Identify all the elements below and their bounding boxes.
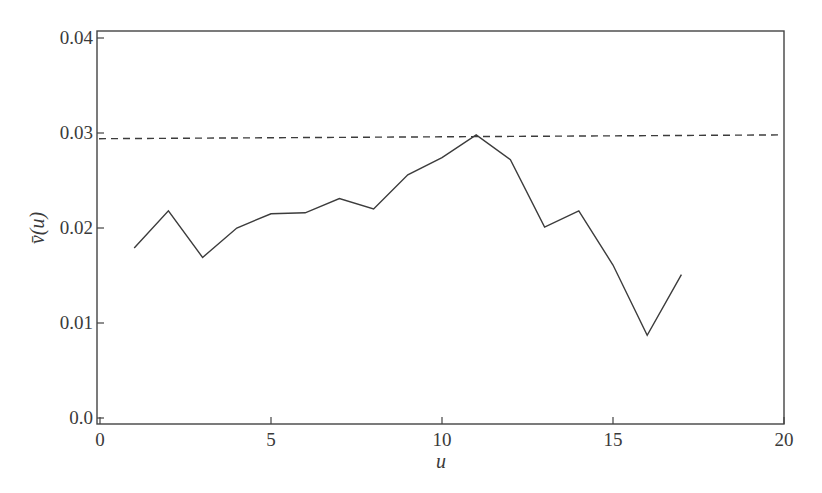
plot-border [97, 31, 784, 424]
y-tick-label: 0.0 [69, 407, 93, 428]
x-axis-label: u [436, 450, 446, 472]
x-tick-label: 10 [433, 429, 452, 450]
x-tick-label: 5 [266, 429, 276, 450]
y-tick-label: 0.02 [60, 217, 93, 238]
x-tick-label: 15 [604, 429, 623, 450]
y-tick-labels: 0.00.010.020.030.04 [60, 27, 94, 428]
axis-ticks [97, 38, 784, 424]
y-axis-label: v̄(u) [26, 212, 49, 245]
data-series [99, 135, 782, 335]
y-tick-label: 0.01 [60, 312, 93, 333]
x-tick-labels: 05101520 [95, 429, 793, 450]
plot-frame [97, 31, 784, 424]
line-chart: 05101520 0.00.010.020.030.04 u v̄(u) [0, 0, 822, 493]
series-line [134, 135, 681, 335]
y-tick-label: 0.04 [60, 27, 94, 48]
x-tick-label: 0 [95, 429, 105, 450]
y-tick-label: 0.03 [60, 122, 93, 143]
reference-dashed-line [99, 135, 782, 139]
x-tick-label: 20 [775, 429, 794, 450]
